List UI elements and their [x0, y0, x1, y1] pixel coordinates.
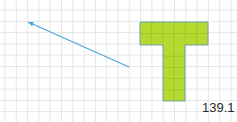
figure-canvas: 139.1	[0, 0, 237, 122]
arrow-vector	[28, 22, 129, 67]
figure-label: 139.1	[202, 100, 235, 115]
